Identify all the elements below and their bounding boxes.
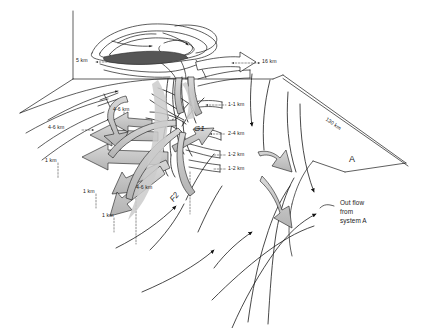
- label-length-1km-b: 1 km: [83, 188, 95, 195]
- diagram-linework: [0, 0, 421, 328]
- label-outflow-line3: system A: [340, 217, 367, 225]
- label-depth-1-1km: 1-1 km: [228, 101, 244, 108]
- label-depth-1-2km-upper: 1-2 km: [228, 151, 244, 158]
- figure-canvas: 5 km 16 km 130 km 1-1 km 2-4 km 1-2 km 1…: [0, 0, 421, 328]
- label-scale-16km: 16 km: [262, 58, 277, 65]
- label-outflow-line1: Out flow: [340, 199, 364, 207]
- label-depth-2-4km: 2-4 km: [228, 130, 244, 137]
- label-depth-1-2km-lower: 1-2 km: [228, 165, 244, 172]
- label-length-1km-c: 1 km: [102, 212, 114, 219]
- system-A-boundary: [289, 161, 313, 256]
- label-scale-5km: 5 km: [76, 57, 88, 64]
- outflow-leader: [320, 205, 334, 208]
- label-structure-g1: G1: [194, 124, 205, 134]
- label-length-4-6km-left: 4-6 km: [48, 124, 64, 131]
- block-frame: [20, 11, 408, 172]
- label-length-4-6km-bottom: 4-6 km: [136, 184, 152, 191]
- label-length-1km-a: 1 km: [45, 157, 57, 164]
- flow-lines-right: [116, 74, 316, 328]
- outflow-arrow-top: [196, 52, 256, 72]
- label-outflow-line2: from: [340, 208, 353, 216]
- label-length-4-6km-top: 4-6 km: [113, 106, 129, 113]
- label-system-a: A: [349, 154, 355, 165]
